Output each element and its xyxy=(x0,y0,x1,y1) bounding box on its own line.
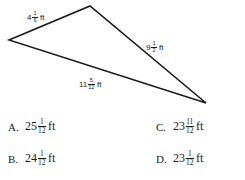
triangle-figure: 416ft 912ft 11512ft xyxy=(0,0,245,115)
choice-value: 231112ft xyxy=(173,118,203,135)
choice-value: 23112ft xyxy=(173,150,203,167)
choice-fraction: 1112 xyxy=(186,118,195,135)
fraction-numerator: 5 xyxy=(89,78,93,84)
fraction-denominator: 12 xyxy=(38,159,47,167)
choice-fraction: 112 xyxy=(186,150,195,167)
choice-whole: 23 xyxy=(173,151,185,166)
choice-letter: A. xyxy=(8,121,25,133)
choice-unit: ft xyxy=(196,151,203,166)
answer-choice-d[interactable]: D. 23112ft xyxy=(156,150,203,167)
fraction-numerator: 1 xyxy=(33,11,37,17)
side-label-right: 912ft xyxy=(146,41,163,54)
answer-choice-a[interactable]: A. 25112ft xyxy=(8,118,55,135)
choice-whole: 25 xyxy=(25,119,37,134)
side-label-unit: ft xyxy=(40,13,44,22)
choice-whole: 24 xyxy=(25,151,37,166)
choice-unit: ft xyxy=(196,119,203,134)
choice-fraction: 112 xyxy=(38,150,47,167)
side-label-unit: ft xyxy=(159,43,163,52)
fraction-denominator: 12 xyxy=(186,159,195,167)
side-label-whole: 9 xyxy=(146,43,150,52)
choice-fraction: 112 xyxy=(38,118,47,135)
choice-unit: ft xyxy=(48,151,55,166)
answer-choice-c[interactable]: C. 231112ft xyxy=(156,118,203,135)
fraction-denominator: 2 xyxy=(152,48,156,54)
fraction-numerator: 1 xyxy=(187,150,192,158)
answer-choice-b[interactable]: B. 24112ft xyxy=(8,150,55,167)
fraction-denominator: 12 xyxy=(186,127,195,135)
choice-letter: D. xyxy=(156,153,173,165)
choice-unit: ft xyxy=(48,119,55,134)
fraction-numerator: 1 xyxy=(39,118,44,126)
fraction-denominator: 12 xyxy=(38,127,47,135)
choice-value: 25112ft xyxy=(25,118,55,135)
fraction-numerator: 1 xyxy=(39,150,44,158)
fraction-numerator: 11 xyxy=(186,118,194,126)
choice-letter: B. xyxy=(8,153,25,165)
side-label-fraction: 512 xyxy=(88,78,95,91)
side-label-top-left: 416ft xyxy=(27,11,44,24)
side-label-whole: 11 xyxy=(79,80,87,89)
side-label-unit: ft xyxy=(97,80,101,89)
choice-whole: 23 xyxy=(173,119,185,134)
side-label-fraction: 16 xyxy=(32,11,38,24)
fraction-denominator: 6 xyxy=(33,18,37,24)
choice-value: 24112ft xyxy=(25,150,55,167)
choice-letter: C. xyxy=(156,121,173,133)
side-label-bottom: 11512ft xyxy=(79,78,101,91)
fraction-numerator: 1 xyxy=(152,41,156,47)
answer-choices: A. 25112ft B. 24112ft C. 231112ft D. 231… xyxy=(0,112,245,180)
side-label-fraction: 12 xyxy=(151,41,157,54)
side-label-whole: 4 xyxy=(27,13,31,22)
fraction-denominator: 12 xyxy=(88,85,95,91)
